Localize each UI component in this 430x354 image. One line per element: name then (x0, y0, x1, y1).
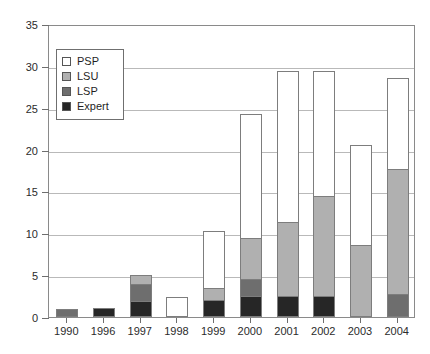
y-axis-label: 20 (8, 145, 38, 156)
y-axis-label: 30 (8, 61, 38, 72)
bar-segment-psp (203, 231, 225, 288)
y-tick-25 (42, 109, 49, 110)
x-tick-2000 (250, 318, 251, 323)
x-tick-1996 (103, 318, 104, 323)
legend: PSPLSULSPExpert (56, 49, 124, 120)
y-tick-5 (42, 276, 49, 277)
bar-segment-expert (277, 296, 299, 317)
legend-swatch-icon (62, 57, 71, 66)
x-tick-2004 (397, 318, 398, 323)
y-axis-label: 10 (8, 229, 38, 240)
x-tick-1998 (176, 318, 177, 323)
legend-label: LSU (77, 71, 98, 82)
legend-item-lsp[interactable]: LSP (62, 84, 118, 99)
bar-2002[interactable] (313, 24, 335, 317)
bar-segment-psp (240, 114, 262, 239)
x-axis-label-2004: 2004 (384, 325, 408, 337)
bar-segment-expert (93, 308, 115, 317)
bar-2004[interactable] (387, 24, 409, 317)
bar-1998[interactable] (166, 24, 188, 317)
bar-segment-lsp (56, 309, 78, 317)
legend-item-lsu[interactable]: LSU (62, 69, 118, 84)
y-axis-label: 15 (8, 187, 38, 198)
x-axis-label-2000: 2000 (238, 325, 262, 337)
x-axis-label-1990: 1990 (54, 325, 78, 337)
x-axis-label-1999: 1999 (201, 325, 225, 337)
bar-segment-expert (240, 296, 262, 317)
y-axis-label: 35 (8, 20, 38, 31)
y-axis-label: 0 (8, 313, 38, 324)
bar-segment-psp (387, 78, 409, 169)
y-tick-35 (42, 25, 49, 26)
x-tick-2003 (360, 318, 361, 323)
x-tick-1997 (140, 318, 141, 323)
legend-label: Expert (77, 101, 109, 112)
legend-swatch-icon (62, 87, 71, 96)
bar-segment-psp (350, 145, 372, 245)
x-axis-label-2001: 2001 (274, 325, 298, 337)
bar-2001[interactable] (277, 24, 299, 317)
legend-label: LSP (77, 86, 98, 97)
legend-item-psp[interactable]: PSP (62, 54, 118, 69)
legend-item-expert[interactable]: Expert (62, 99, 118, 114)
bar-segment-expert (130, 301, 152, 317)
x-axis-label-1996: 1996 (91, 325, 115, 337)
legend-swatch-icon (62, 102, 71, 111)
y-axis-label: 5 (8, 271, 38, 282)
bar-segment-lsu (203, 288, 225, 301)
bar-2000[interactable] (240, 24, 262, 317)
bar-segment-expert (313, 296, 335, 317)
y-tick-0 (42, 318, 49, 319)
x-axis-label-1998: 1998 (164, 325, 188, 337)
y-axis-label: 25 (8, 103, 38, 114)
y-tick-20 (42, 151, 49, 152)
bar-segment-lsu (277, 222, 299, 297)
x-tick-2001 (287, 318, 288, 323)
bar-segment-psp (277, 71, 299, 222)
x-tick-1990 (66, 318, 67, 323)
bar-segment-lsp (130, 284, 152, 302)
x-axis-label-1997: 1997 (128, 325, 152, 337)
bar-segment-psp (166, 297, 188, 317)
bar-1999[interactable] (203, 24, 225, 317)
x-tick-1999 (213, 318, 214, 323)
y-tick-30 (42, 67, 49, 68)
bar-segment-lsu (313, 196, 335, 296)
bar-segment-lsp (240, 279, 262, 296)
legend-swatch-icon (62, 72, 71, 81)
bar-segment-lsu (350, 245, 372, 317)
bar-segment-expert (203, 300, 225, 317)
bar-1997[interactable] (130, 24, 152, 317)
bar-segment-lsu (130, 275, 152, 283)
bar-segment-lsu (387, 169, 409, 295)
y-tick-10 (42, 234, 49, 235)
bar-chart: 05101520253035 1990199619971998199920002… (0, 0, 430, 354)
legend-label: PSP (77, 56, 99, 67)
x-axis-label-2002: 2002 (311, 325, 335, 337)
bar-segment-lsp (387, 294, 409, 317)
bar-2003[interactable] (350, 24, 372, 317)
x-tick-2002 (323, 318, 324, 323)
bar-segment-psp (313, 71, 335, 197)
y-tick-15 (42, 192, 49, 193)
x-axis-label-2003: 2003 (348, 325, 372, 337)
bar-segment-lsu (240, 238, 262, 279)
